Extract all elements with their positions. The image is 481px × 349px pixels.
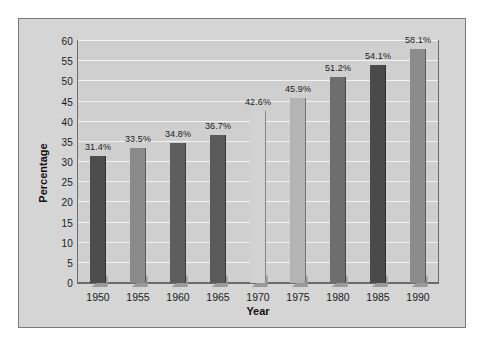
bar-group: 51.2%1980 xyxy=(318,41,358,283)
bar-1990 xyxy=(410,49,426,283)
bar-group: 42.6%1970 xyxy=(238,41,278,283)
y-axis-title: Percentage xyxy=(37,93,49,253)
x-tick-label: 1970 xyxy=(246,291,269,303)
x-tick-label: 1950 xyxy=(86,291,109,303)
y-tick-label: 55 xyxy=(61,56,73,67)
bar-group: 36.7%1965 xyxy=(198,41,238,283)
bar-value-label: 34.8% xyxy=(165,129,191,139)
x-tick-label: 1980 xyxy=(326,291,349,303)
y-tick-label: 5 xyxy=(67,257,73,268)
chart-figure: 05101520253035404550556031.4%195033.5%19… xyxy=(0,0,481,349)
bar-value-label: 42.6% xyxy=(245,97,271,107)
plot-area: 05101520253035404550556031.4%195033.5%19… xyxy=(77,40,439,284)
y-tick-label: 50 xyxy=(61,76,73,87)
bar-1975 xyxy=(290,98,306,283)
y-tick-label: 10 xyxy=(61,237,73,248)
bar-group: 58.1%1990 xyxy=(398,41,438,283)
chart-panel: 05101520253035404550556031.4%195033.5%19… xyxy=(18,18,466,328)
x-tick-label: 1955 xyxy=(126,291,149,303)
bar-1980 xyxy=(330,77,346,284)
bar-1965 xyxy=(210,135,226,283)
y-tick-label: 20 xyxy=(61,197,73,208)
plot-inner: 05101520253035404550556031.4%195033.5%19… xyxy=(78,41,438,283)
bar-value-label: 58.1% xyxy=(405,35,431,45)
bar-value-label: 45.9% xyxy=(285,84,311,94)
y-tick-label: 35 xyxy=(61,136,73,147)
x-tick-label: 1990 xyxy=(406,291,429,303)
bar-group: 31.4%1950 xyxy=(78,41,118,283)
x-tick-label: 1985 xyxy=(366,291,389,303)
bar-value-label: 31.4% xyxy=(85,142,111,152)
bar-value-label: 36.7% xyxy=(205,121,231,131)
x-tick-label: 1960 xyxy=(166,291,189,303)
bar-group: 45.9%1975 xyxy=(278,41,318,283)
bar-1960 xyxy=(170,143,186,283)
bar-group: 34.8%1960 xyxy=(158,41,198,283)
bar-1985 xyxy=(370,65,386,283)
bar-1955 xyxy=(130,148,146,283)
bar-1970 xyxy=(250,111,266,283)
x-axis-title: Year xyxy=(77,305,439,317)
x-tick-label: 1965 xyxy=(206,291,229,303)
bar-group: 54.1%1985 xyxy=(358,41,398,283)
y-tick-label: 45 xyxy=(61,96,73,107)
bar-group: 33.5%1955 xyxy=(118,41,158,283)
bar-value-label: 51.2% xyxy=(325,63,351,73)
y-tick-label: 25 xyxy=(61,177,73,188)
bar-value-label: 54.1% xyxy=(365,51,391,61)
bar-1950 xyxy=(90,156,106,283)
y-tick-label: 15 xyxy=(61,217,73,228)
x-tick-label: 1975 xyxy=(286,291,309,303)
y-tick-label: 40 xyxy=(61,116,73,127)
y-tick-label: 0 xyxy=(67,278,73,289)
y-tick-label: 60 xyxy=(61,36,73,47)
y-tick-label: 30 xyxy=(61,157,73,168)
bar-value-label: 33.5% xyxy=(125,134,151,144)
